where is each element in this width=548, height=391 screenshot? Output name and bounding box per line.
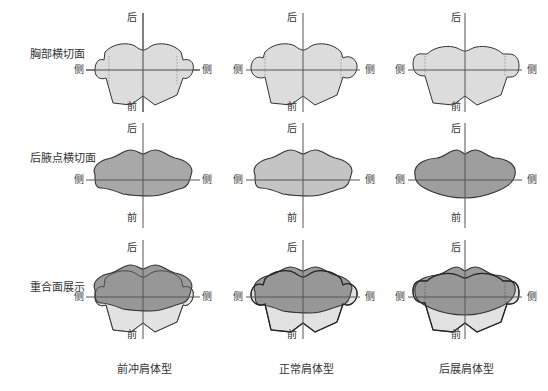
axis-label-front: 前: [287, 330, 297, 340]
axis-label-side: 侧: [202, 65, 212, 75]
axis-label-front: 前: [451, 102, 461, 112]
axis-label-front: 前: [127, 213, 137, 223]
overlay-section-col2: [246, 240, 360, 339]
axis-label-side: 侧: [233, 65, 243, 75]
axis-label-front: 前: [451, 330, 461, 340]
axis-label-front: 前: [287, 102, 297, 112]
axis-label-side: 侧: [527, 65, 537, 75]
axis-label-front: 前: [451, 213, 461, 223]
axis-label-side: 侧: [395, 292, 405, 302]
overlay-section-col1: [86, 240, 200, 339]
chest-section-col3: [408, 13, 522, 112]
chest-section-col2: [246, 13, 360, 112]
chest-section-col1: [86, 13, 200, 112]
armpit-section-col1: [86, 123, 200, 228]
axis-label-side: 侧: [365, 65, 375, 75]
axis-label-back: 后: [127, 243, 137, 253]
axis-label-side: 侧: [395, 175, 405, 185]
axis-label-back: 后: [127, 13, 137, 23]
axis-label-side: 侧: [527, 292, 537, 302]
axis-label-side: 侧: [202, 175, 212, 185]
overlay-section-col3: [408, 240, 522, 339]
axis-label-side: 侧: [395, 65, 405, 75]
axis-label-side: 侧: [365, 175, 375, 185]
axis-label-side: 侧: [527, 175, 537, 185]
armpit-section-col3: [408, 123, 522, 228]
axis-label-side: 侧: [74, 292, 84, 302]
axis-label-front: 前: [127, 102, 137, 112]
armpit-section-col2: [246, 123, 360, 228]
axis-label-back: 后: [451, 243, 461, 253]
axis-label-back: 后: [451, 124, 461, 134]
axis-label-side: 侧: [233, 292, 243, 302]
axis-label-back: 后: [287, 243, 297, 253]
axis-label-side: 侧: [365, 292, 375, 302]
axis-label-side: 侧: [74, 175, 84, 185]
axis-label-back: 后: [287, 124, 297, 134]
axis-label-side: 侧: [233, 175, 243, 185]
axis-label-front: 前: [127, 330, 137, 340]
axis-label-side: 侧: [74, 65, 84, 75]
axis-label-back: 后: [451, 13, 461, 23]
cross-section-diagrams: [0, 0, 548, 391]
axis-label-side: 侧: [202, 292, 212, 302]
axis-label-back: 后: [287, 13, 297, 23]
axis-label-back: 后: [127, 124, 137, 134]
axis-label-front: 前: [287, 213, 297, 223]
